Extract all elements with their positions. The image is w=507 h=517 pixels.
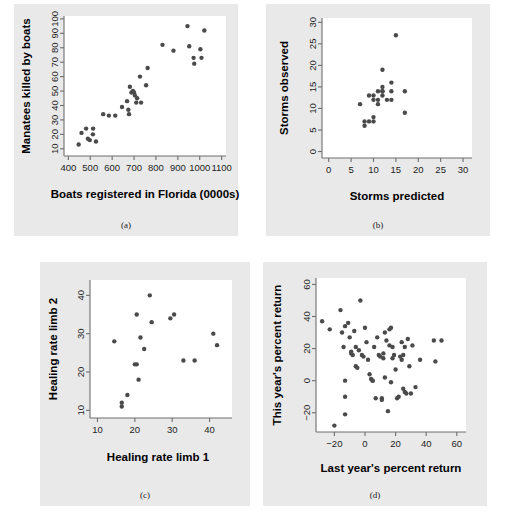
svg-text:30: 30 bbox=[307, 17, 318, 28]
svg-text:70: 70 bbox=[49, 57, 60, 68]
svg-text:40: 40 bbox=[421, 438, 432, 449]
panel-a-xticks: 40050060070080090010001100 bbox=[60, 156, 231, 173]
panel-d-caption: (d) bbox=[263, 490, 487, 500]
svg-text:60: 60 bbox=[301, 279, 312, 290]
svg-text:10: 10 bbox=[75, 405, 86, 416]
svg-text:60: 60 bbox=[452, 438, 463, 449]
panel-b-caption: (b) bbox=[266, 220, 490, 230]
svg-text:90: 90 bbox=[49, 28, 60, 39]
svg-text:20: 20 bbox=[75, 367, 86, 378]
svg-text:400: 400 bbox=[60, 162, 76, 173]
svg-text:30: 30 bbox=[75, 328, 86, 339]
svg-text:5: 5 bbox=[307, 127, 318, 132]
panel-a-yticks: 102030405060708090100 bbox=[49, 11, 64, 154]
svg-text:10: 10 bbox=[49, 143, 60, 154]
svg-text:1100: 1100 bbox=[211, 162, 231, 173]
svg-text:20: 20 bbox=[390, 438, 401, 449]
panel-d-xlabel: Last year's percent return bbox=[321, 462, 462, 474]
panel-c-healing: 10203040 10203040 Healing rate limb 2 He… bbox=[40, 262, 250, 506]
svg-text:40: 40 bbox=[204, 424, 215, 435]
svg-text:15: 15 bbox=[307, 82, 318, 93]
svg-text:800: 800 bbox=[148, 162, 164, 173]
svg-text:80: 80 bbox=[49, 42, 60, 53]
panel-c-xticks: 10203040 bbox=[92, 418, 215, 435]
svg-text:20: 20 bbox=[301, 343, 312, 354]
panel-b-xticks: 051015202530 bbox=[326, 158, 468, 175]
panel-b-xlabel: Storms predicted bbox=[350, 190, 445, 202]
panel-b-yticks: 051015202530 bbox=[307, 17, 322, 154]
svg-text:600: 600 bbox=[104, 162, 120, 173]
svg-text:100: 100 bbox=[49, 11, 60, 27]
svg-text:40: 40 bbox=[75, 290, 86, 301]
multi-panel-scatterplot-figure: 102030405060708090100 400500600700800900… bbox=[0, 0, 507, 517]
svg-text:50: 50 bbox=[49, 86, 60, 97]
panel-d-chart: −200204060 −200204060 This year's percen… bbox=[263, 262, 487, 506]
svg-text:15: 15 bbox=[391, 164, 402, 175]
svg-text:30: 30 bbox=[167, 424, 178, 435]
panel-d-yticks: −200204060 bbox=[301, 279, 316, 421]
panel-b-chart: 051015202530 051015202530 Storms observe… bbox=[266, 4, 490, 236]
svg-text:40: 40 bbox=[301, 311, 312, 322]
svg-text:30: 30 bbox=[458, 164, 469, 175]
svg-text:0: 0 bbox=[326, 164, 331, 175]
svg-text:10: 10 bbox=[92, 424, 103, 435]
panel-b-storms: 051015202530 051015202530 Storms observe… bbox=[266, 4, 490, 236]
panel-a-chart: 102030405060708090100 400500600700800900… bbox=[14, 4, 238, 236]
svg-text:−20: −20 bbox=[326, 438, 342, 449]
svg-text:20: 20 bbox=[413, 164, 424, 175]
svg-text:900: 900 bbox=[170, 162, 186, 173]
svg-text:−20: −20 bbox=[301, 405, 312, 421]
svg-text:20: 20 bbox=[130, 424, 141, 435]
svg-text:0: 0 bbox=[307, 149, 318, 154]
svg-text:0: 0 bbox=[362, 438, 367, 449]
svg-text:40: 40 bbox=[49, 100, 60, 111]
svg-text:20: 20 bbox=[49, 129, 60, 140]
panel-a-xlabel: Boats registered in Florida (0000s) bbox=[51, 188, 240, 200]
svg-text:25: 25 bbox=[307, 39, 318, 50]
panel-a-ylabel: Manatees killed by boats bbox=[20, 18, 32, 154]
svg-text:5: 5 bbox=[348, 164, 353, 175]
svg-text:500: 500 bbox=[82, 162, 98, 173]
svg-text:1000: 1000 bbox=[189, 162, 210, 173]
panel-a-manatees: 102030405060708090100 400500600700800900… bbox=[14, 4, 238, 236]
panel-c-ylabel: Healing rate limb 2 bbox=[47, 298, 59, 400]
svg-text:0: 0 bbox=[301, 378, 312, 383]
panel-b-ylabel: Storms observed bbox=[278, 41, 290, 135]
svg-text:30: 30 bbox=[49, 115, 60, 126]
svg-text:20: 20 bbox=[307, 60, 318, 71]
panel-c-xlabel: Healing rate limb 1 bbox=[107, 451, 210, 463]
panel-d-xticks: −200204060 bbox=[326, 432, 462, 449]
svg-text:10: 10 bbox=[368, 164, 379, 175]
panel-a-caption: (a) bbox=[14, 220, 238, 230]
panel-c-chart: 10203040 10203040 Healing rate limb 2 He… bbox=[40, 262, 250, 506]
panel-d-ylabel: This year's percent return bbox=[271, 285, 283, 426]
panel-c-caption: (c) bbox=[40, 490, 250, 500]
svg-text:10: 10 bbox=[307, 103, 318, 114]
svg-text:700: 700 bbox=[126, 162, 142, 173]
svg-text:25: 25 bbox=[435, 164, 446, 175]
panel-c-yticks: 10203040 bbox=[75, 290, 90, 416]
panel-d-returns: −200204060 −200204060 This year's percen… bbox=[263, 262, 487, 506]
svg-text:60: 60 bbox=[49, 71, 60, 82]
